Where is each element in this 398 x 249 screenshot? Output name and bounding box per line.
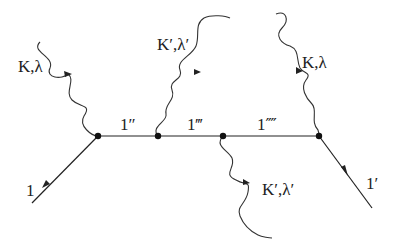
label-photon-out-bottom: K′,λ′ [262, 180, 294, 199]
vertex-3 [220, 133, 226, 139]
photon-in-right [276, 13, 319, 136]
label-photon-out-top: K′,λ′ [157, 35, 189, 54]
label-internal-1: 1″ [120, 115, 136, 134]
photon-in-left [38, 42, 98, 136]
vertex-2 [155, 133, 161, 139]
incoming-electron-line [32, 136, 98, 203]
arrow-icon [64, 71, 72, 77]
feynman-diagram: K,λ K′,λ′ K,λ K′,λ′ 1″ 1‴ 1⁗ 1 1′ [0, 0, 398, 249]
arrow-icon [194, 69, 201, 75]
label-photon-in-left: K,λ [18, 57, 44, 76]
label-incoming-electron: 1 [26, 181, 35, 200]
vertex-1 [95, 133, 101, 139]
label-photon-in-right: K,λ [302, 53, 328, 72]
arrow-icon [341, 165, 348, 176]
label-internal-2: 1‴ [187, 115, 203, 134]
vertex-4 [316, 133, 322, 139]
label-internal-3: 1⁗ [257, 115, 277, 134]
label-outgoing-electron: 1′ [366, 174, 378, 193]
